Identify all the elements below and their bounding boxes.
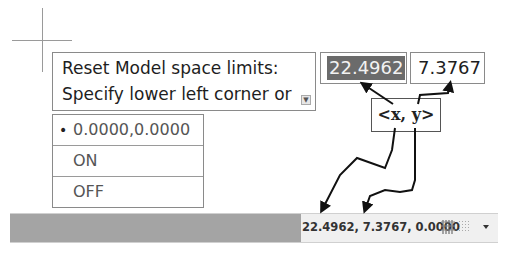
status-bar-empty-area [10,214,301,242]
prompt-line-1: Reset Model space limits: [62,55,315,81]
y-coordinate-input[interactable]: 7.3767 [410,52,485,84]
option-default-corner[interactable]: • 0.0000,0.0000 [53,115,203,146]
down-arrow-expand-icon[interactable]: ▼ [301,95,311,105]
option-label: 0.0000,0.0000 [73,120,190,139]
xy-annotation-label: <x, y> [371,98,441,132]
crosshair-vertical [42,8,43,72]
snap-mode-icon[interactable] [458,220,472,234]
status-coordinates[interactable]: 22.4962, 7.3767, 0.0000 [302,213,460,241]
x-coordinate-value: 22.4962 [327,56,405,80]
grid-display-icon[interactable] [441,220,455,234]
customization-menu-icon[interactable] [483,225,489,229]
option-label: OFF [73,182,104,201]
bullet-icon: • [59,115,67,145]
x-coordinate-input[interactable]: 22.4962 [320,52,407,84]
option-off[interactable]: OFF [53,177,203,207]
command-options-menu: • 0.0000,0.0000 ON OFF [52,114,204,208]
option-on[interactable]: ON [53,146,203,177]
command-prompt-tooltip: Reset Model space limits: Specify lower … [52,52,316,111]
option-label: ON [73,151,98,170]
prompt-line-2: Specify lower left corner or [62,81,315,107]
